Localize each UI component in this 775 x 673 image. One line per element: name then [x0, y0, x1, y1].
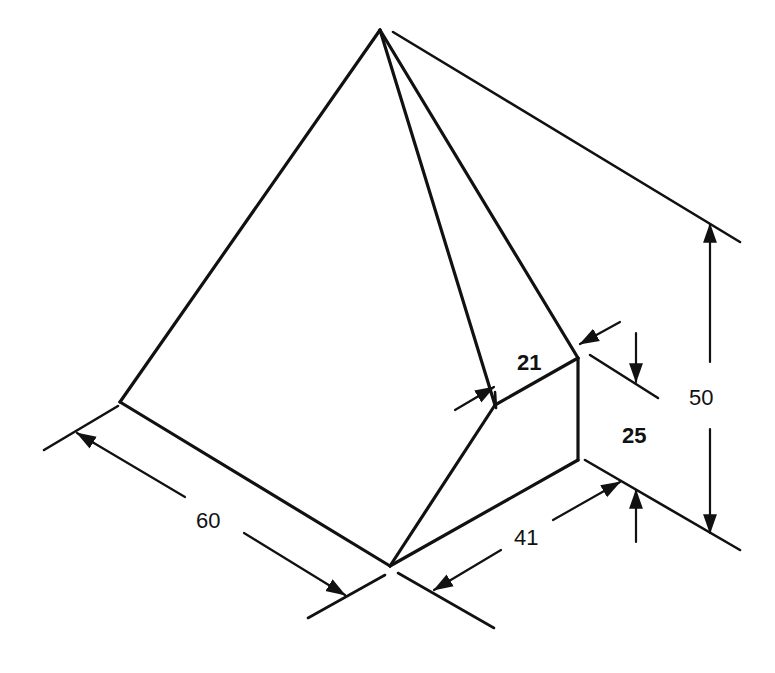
dimension-label-50: 50: [689, 385, 713, 410]
dimension-label-60: 60: [196, 508, 220, 533]
isometric-drawing: 60 41 21 25 50: [0, 0, 775, 673]
dimension-41: 41: [434, 482, 620, 590]
dimension-label-25: 25: [622, 423, 646, 448]
dimension-21: 21: [455, 322, 620, 410]
dimension-label-41: 41: [514, 525, 538, 550]
dimension-50: 50: [689, 224, 713, 533]
dimension-25: 25: [622, 333, 646, 542]
dimension-label-21: 21: [517, 350, 541, 375]
object-outline: [120, 30, 578, 566]
